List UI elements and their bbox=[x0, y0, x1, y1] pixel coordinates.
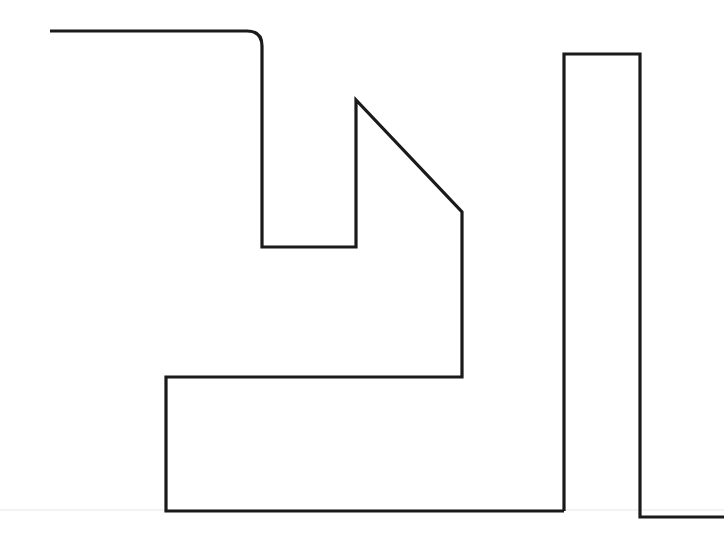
line-drawing-svg bbox=[0, 0, 724, 541]
canvas-background bbox=[0, 0, 724, 541]
drawing-canvas bbox=[0, 0, 724, 541]
